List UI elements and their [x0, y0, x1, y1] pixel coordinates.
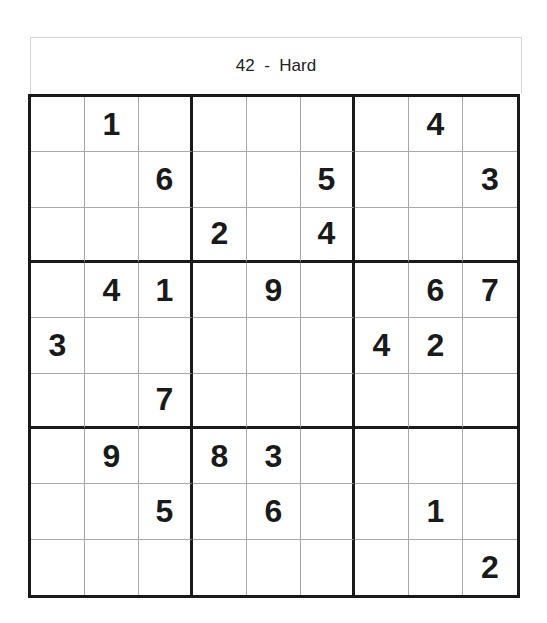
sudoku-cell[interactable]: [355, 429, 409, 484]
sudoku-cell[interactable]: [85, 374, 139, 429]
sudoku-cell[interactable]: [409, 208, 463, 263]
sudoku-cell[interactable]: [463, 429, 517, 484]
sudoku-cell[interactable]: [463, 318, 517, 373]
sudoku-cell[interactable]: [247, 208, 301, 263]
sudoku-cell[interactable]: 2: [409, 318, 463, 373]
sudoku-cell[interactable]: 5: [139, 484, 193, 539]
sudoku-cell[interactable]: [409, 540, 463, 595]
sudoku-cell[interactable]: [193, 97, 247, 152]
sudoku-cell[interactable]: 3: [247, 429, 301, 484]
sudoku-grid: 14653244196734279835612: [28, 94, 520, 598]
sudoku-cell[interactable]: [301, 374, 355, 429]
sudoku-cell[interactable]: [193, 374, 247, 429]
puzzle-number: 42: [236, 56, 255, 76]
sudoku-cell[interactable]: [301, 318, 355, 373]
sudoku-cell[interactable]: [85, 208, 139, 263]
sudoku-cell[interactable]: [31, 97, 85, 152]
sudoku-cell[interactable]: [301, 540, 355, 595]
sudoku-cell[interactable]: 2: [193, 208, 247, 263]
sudoku-cell[interactable]: [355, 97, 409, 152]
sudoku-cell[interactable]: 6: [247, 484, 301, 539]
sudoku-cell[interactable]: [355, 484, 409, 539]
sudoku-cell[interactable]: [409, 374, 463, 429]
sudoku-cell[interactable]: [85, 318, 139, 373]
sudoku-cell[interactable]: 2: [463, 540, 517, 595]
sudoku-cell[interactable]: [355, 208, 409, 263]
sudoku-cell[interactable]: [301, 263, 355, 318]
sudoku-cell[interactable]: [139, 97, 193, 152]
sudoku-cell[interactable]: 4: [301, 208, 355, 263]
sudoku-cell[interactable]: [193, 484, 247, 539]
sudoku-cell[interactable]: 1: [409, 484, 463, 539]
sudoku-cell[interactable]: 1: [85, 97, 139, 152]
sudoku-cell[interactable]: [247, 374, 301, 429]
sudoku-cell[interactable]: [247, 318, 301, 373]
sudoku-cell[interactable]: 4: [355, 318, 409, 373]
sudoku-cell[interactable]: [31, 374, 85, 429]
sudoku-cell[interactable]: 3: [463, 152, 517, 207]
sudoku-cell[interactable]: 1: [139, 263, 193, 318]
sudoku-cell[interactable]: [409, 429, 463, 484]
sudoku-cell[interactable]: 8: [193, 429, 247, 484]
sudoku-cell[interactable]: 5: [301, 152, 355, 207]
sudoku-cell[interactable]: [301, 484, 355, 539]
sudoku-cell[interactable]: [301, 429, 355, 484]
sudoku-cell[interactable]: [247, 540, 301, 595]
sudoku-cell[interactable]: 7: [463, 263, 517, 318]
sudoku-cell[interactable]: [85, 484, 139, 539]
sudoku-cell[interactable]: 4: [409, 97, 463, 152]
sudoku-cell[interactable]: [355, 540, 409, 595]
sudoku-cell[interactable]: 6: [139, 152, 193, 207]
sudoku-cell[interactable]: [409, 152, 463, 207]
sudoku-cell[interactable]: [463, 484, 517, 539]
sudoku-cell[interactable]: [31, 152, 85, 207]
sudoku-cell[interactable]: [193, 318, 247, 373]
sudoku-cell[interactable]: 7: [139, 374, 193, 429]
sudoku-cell[interactable]: [85, 152, 139, 207]
sudoku-cell[interactable]: [463, 208, 517, 263]
sudoku-cell[interactable]: [463, 374, 517, 429]
sudoku-cell[interactable]: [247, 97, 301, 152]
sudoku-cell[interactable]: [355, 152, 409, 207]
sudoku-cell[interactable]: [355, 374, 409, 429]
sudoku-cell[interactable]: [85, 540, 139, 595]
sudoku-cell[interactable]: [139, 318, 193, 373]
sudoku-cell[interactable]: [31, 429, 85, 484]
sudoku-cell[interactable]: [247, 152, 301, 207]
sudoku-cell[interactable]: 3: [31, 318, 85, 373]
sudoku-cell[interactable]: [31, 208, 85, 263]
sudoku-cell[interactable]: 4: [85, 263, 139, 318]
sudoku-cell[interactable]: [301, 97, 355, 152]
sudoku-cell[interactable]: [139, 429, 193, 484]
sudoku-cell[interactable]: [139, 540, 193, 595]
sudoku-cell[interactable]: [31, 540, 85, 595]
sudoku-cell[interactable]: [31, 263, 85, 318]
puzzle-title: 42 - Hard: [30, 37, 522, 94]
sudoku-cell[interactable]: [463, 97, 517, 152]
sudoku-cell[interactable]: [193, 263, 247, 318]
sudoku-cell[interactable]: [139, 208, 193, 263]
sudoku-cell[interactable]: 6: [409, 263, 463, 318]
sudoku-cell[interactable]: [31, 484, 85, 539]
sudoku-cell[interactable]: 9: [85, 429, 139, 484]
sudoku-cell[interactable]: [193, 152, 247, 207]
sudoku-cell[interactable]: 9: [247, 263, 301, 318]
sudoku-cell[interactable]: [355, 263, 409, 318]
sudoku-cell[interactable]: [193, 540, 247, 595]
difficulty-label: Hard: [279, 56, 316, 76]
